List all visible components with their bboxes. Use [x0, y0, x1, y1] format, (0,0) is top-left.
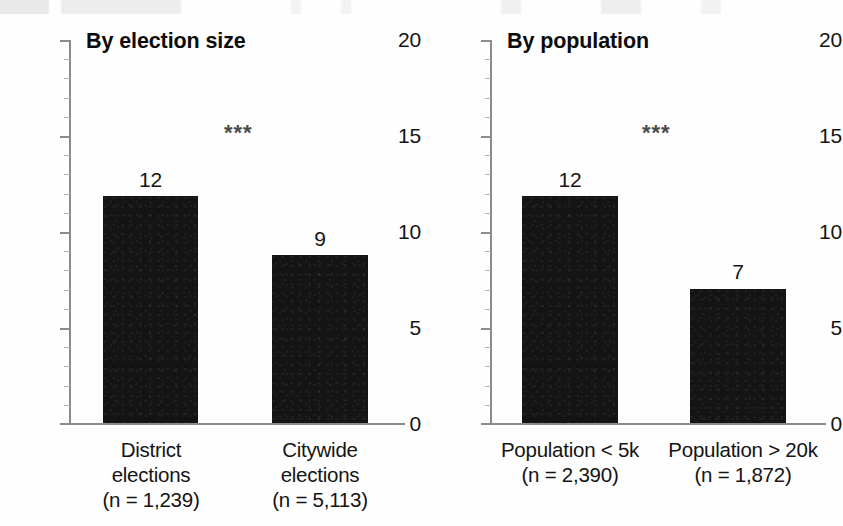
y-tick-minor-left	[64, 213, 70, 214]
y-tick-minor-left	[64, 251, 70, 252]
y-tick-major-15-right	[481, 136, 491, 138]
panel-by-population: By population 20 15 10 5 0 12 7	[421, 0, 842, 526]
y-tick-minor-left	[64, 59, 70, 60]
y-tick-minor-left	[64, 366, 70, 367]
category-label-line-1: Citywide	[239, 437, 401, 462]
y-tick-major-15-left	[60, 136, 70, 138]
category-label-line-3: (n = 5,113)	[239, 487, 401, 512]
y-tick-minor-left	[64, 270, 70, 271]
y-tick-label-20-left: 20	[369, 29, 421, 50]
y-tick-major-5-right	[481, 328, 491, 330]
category-label-population-over-20k: Population > 20k (n = 1,872)	[651, 437, 835, 487]
y-tick-minor-right	[485, 117, 491, 118]
panel-by-election-size: By election size 20 15 10 5 0 12	[0, 0, 421, 526]
y-tick-minor-right	[485, 59, 491, 60]
panel-title-right: By population	[507, 29, 649, 53]
category-label-line-2: (n = 1,872)	[651, 462, 835, 487]
y-tick-minor-right	[485, 405, 491, 406]
significance-marker-right: ***	[642, 124, 671, 142]
y-tick-major-10-right	[481, 232, 491, 234]
category-label-line-2: elections	[70, 462, 232, 487]
y-tick-minor-right	[485, 386, 491, 387]
y-tick-minor-right	[485, 366, 491, 367]
bar-population-over-20k[interactable]	[690, 289, 786, 423]
y-tick-minor-left	[64, 347, 70, 348]
y-tick-minor-right	[485, 155, 491, 156]
panel-title-left: By election size	[86, 29, 246, 53]
y-tick-major-20-left	[60, 40, 70, 42]
y-tick-minor-left	[64, 386, 70, 387]
y-tick-major-10-left	[60, 232, 70, 234]
bar-value-citywide-elections: 9	[272, 228, 368, 249]
y-tick-label-10-right: 10	[790, 221, 842, 242]
y-tick-label-0-right: 0	[790, 413, 842, 434]
bar-citywide-elections[interactable]	[272, 255, 368, 423]
y-tick-minor-left	[64, 117, 70, 118]
y-tick-minor-right	[485, 174, 491, 175]
category-label-line-1: Population > 20k	[651, 437, 835, 462]
bar-district-elections[interactable]	[103, 196, 198, 423]
y-tick-major-0-right	[481, 423, 491, 425]
y-tick-label-15-left: 15	[369, 125, 421, 146]
category-label-district-elections: District elections (n = 1,239)	[70, 437, 232, 512]
category-label-citywide-elections: Citywide elections (n = 5,113)	[239, 437, 401, 512]
y-tick-minor-right	[485, 347, 491, 348]
y-tick-label-5-right: 5	[790, 317, 842, 338]
y-tick-label-15-right: 15	[790, 125, 842, 146]
category-label-line-2: elections	[239, 462, 401, 487]
y-tick-minor-right	[485, 309, 491, 310]
y-tick-minor-left	[64, 78, 70, 79]
bar-value-population-under-5k: 12	[522, 169, 618, 190]
y-tick-label-20-right: 20	[790, 29, 842, 50]
y-tick-minor-right	[485, 270, 491, 271]
y-tick-minor-right	[485, 194, 491, 195]
figure-canvas: By election size 20 15 10 5 0 12	[0, 0, 843, 526]
y-tick-minor-right	[485, 251, 491, 252]
y-tick-minor-left	[64, 309, 70, 310]
bar-value-population-over-20k: 7	[690, 261, 786, 282]
y-tick-minor-right	[485, 290, 491, 291]
category-label-line-1: Population < 5k	[481, 437, 659, 462]
y-tick-minor-left	[64, 98, 70, 99]
y-tick-minor-right	[485, 78, 491, 79]
significance-marker-left: ***	[224, 124, 253, 142]
y-tick-minor-left	[64, 290, 70, 291]
y-tick-minor-right	[485, 98, 491, 99]
y-tick-major-20-right	[481, 40, 491, 42]
y-tick-major-5-left	[60, 328, 70, 330]
y-tick-label-0-left: 0	[369, 413, 421, 434]
y-tick-minor-left	[64, 174, 70, 175]
category-label-line-1: District	[70, 437, 232, 462]
y-tick-label-10-left: 10	[369, 221, 421, 242]
bar-population-under-5k[interactable]	[522, 196, 618, 423]
y-tick-minor-left	[64, 155, 70, 156]
category-label-population-under-5k: Population < 5k (n = 2,390)	[481, 437, 659, 487]
category-label-line-3: (n = 1,239)	[70, 487, 232, 512]
y-tick-minor-left	[64, 194, 70, 195]
category-label-line-2: (n = 2,390)	[481, 462, 659, 487]
y-tick-minor-left	[64, 405, 70, 406]
y-tick-label-5-left: 5	[369, 317, 421, 338]
y-tick-minor-right	[485, 213, 491, 214]
y-tick-major-0-left	[60, 423, 70, 425]
bar-value-district-elections: 12	[103, 169, 198, 190]
